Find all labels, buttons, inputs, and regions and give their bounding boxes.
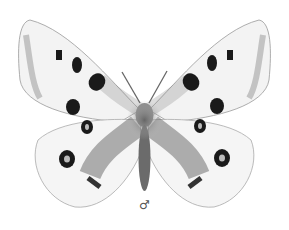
butterfly-illustration: ♂ (0, 0, 289, 230)
butterfly-icon (0, 0, 289, 230)
male-symbol: ♂ (139, 198, 150, 212)
